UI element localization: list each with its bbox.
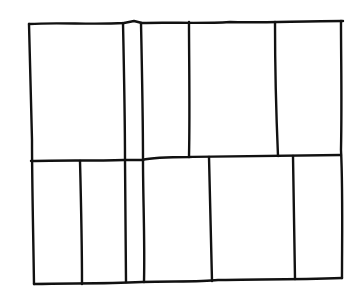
- top-row-divider-2: [275, 22, 278, 156]
- outer-frame-right-edge: [341, 21, 342, 278]
- full-height-divider-1: [123, 23, 126, 282]
- bottom-row-divider-1: [80, 161, 82, 284]
- outer-frame-left-edge: [29, 24, 34, 284]
- row-divider: [31, 155, 341, 161]
- grid-sketch: [0, 0, 364, 301]
- bottom-row-divider-2: [209, 157, 212, 281]
- bottom-row-divider-3: [293, 156, 295, 279]
- grid-sketch-canvas: [0, 0, 364, 301]
- full-height-divider-2: [141, 23, 144, 282]
- outer-frame-top-edge: [29, 21, 343, 24]
